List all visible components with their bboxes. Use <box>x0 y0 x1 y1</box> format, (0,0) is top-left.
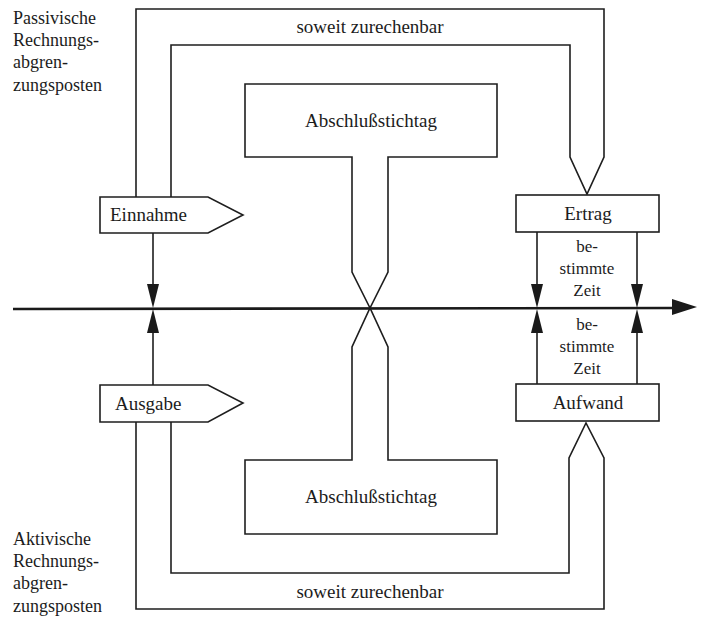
top-cutoff-label: Abschlußstichtag <box>305 110 437 131</box>
passive-accruals-label: Passivische Rechnungs- abgren- zungspost… <box>13 8 102 95</box>
revenue-label: Ertrag <box>564 203 612 224</box>
passive-label-line-4: zungsposten <box>13 75 102 95</box>
expenditure-label: Ausgabe <box>115 393 181 414</box>
upper-period-line-2: stimmte <box>560 259 615 278</box>
expense-label: Aufwand <box>553 392 624 413</box>
upper-period-label: be- stimmte Zeit <box>560 237 615 300</box>
accrual-diagram: Passivische Rechnungs- abgren- zungspost… <box>0 0 704 626</box>
passive-label-line-2: Rechnungs- <box>13 30 99 50</box>
revenue-right-arrow-down-icon <box>631 284 643 308</box>
time-axis <box>13 308 676 309</box>
active-accruals-label: Aktivische Rechnungs- abgren- zungsposte… <box>13 529 102 616</box>
lower-period-line-1: be- <box>576 315 598 334</box>
time-axis-arrowhead-icon <box>672 299 697 315</box>
lower-period-line-2: stimmte <box>560 337 615 356</box>
income-label: Einnahme <box>110 204 187 225</box>
lower-period-label: be- stimmte Zeit <box>560 315 615 378</box>
bottom-cutoff-label: Abschlußstichtag <box>305 486 437 507</box>
expense-right-arrow-up-icon <box>631 309 643 333</box>
expenditure-arrow-up-icon <box>147 309 159 333</box>
active-label-line-1: Aktivische <box>13 529 91 549</box>
expense-left-arrow-up-icon <box>531 309 543 333</box>
income-arrow-down-icon <box>147 284 159 308</box>
passive-label-line-1: Passivische <box>13 8 96 28</box>
passive-label-line-3: abgren- <box>13 52 68 72</box>
revenue-left-arrow-down-icon <box>531 284 543 308</box>
upper-period-line-1: be- <box>576 237 598 256</box>
active-label-line-2: Rechnungs- <box>13 551 99 571</box>
active-label-line-4: zungsposten <box>13 596 102 616</box>
top-path-label: soweit zurechenbar <box>296 16 444 37</box>
lower-period-line-3: Zeit <box>573 359 601 378</box>
bottom-path-label: soweit zurechenbar <box>296 581 444 602</box>
active-label-line-3: abgren- <box>13 573 68 593</box>
upper-period-line-3: Zeit <box>573 281 601 300</box>
